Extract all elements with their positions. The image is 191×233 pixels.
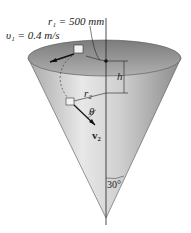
h-label: h — [117, 71, 123, 82]
cone-body — [28, 58, 181, 218]
v2-label: v₂ — [92, 130, 101, 141]
r1-label: r₁ = 500 mm — [48, 16, 104, 27]
cone-rim — [28, 40, 181, 76]
block-2 — [66, 98, 74, 105]
block-1 — [74, 45, 83, 53]
theta-label: θ — [89, 106, 94, 117]
v1-label: υ₁ = 0.4 m/s — [6, 30, 60, 41]
angle-label: 30° — [107, 180, 121, 190]
r2-label: r₂ — [84, 88, 92, 99]
